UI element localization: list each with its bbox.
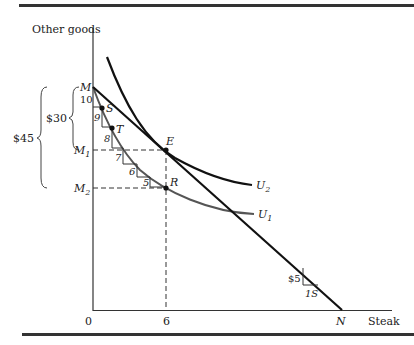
point-t-label: T [116,123,125,136]
brace-45-label: $45 [13,132,34,145]
brace-30-label: $30 [46,112,67,125]
bottom-rule [22,333,414,336]
slope-unit-label: 1S [305,288,318,299]
step-7-label: 7 [115,152,122,163]
x-tick-6-label: 6 [163,315,170,328]
point-s-dot [99,105,104,110]
point-e-dot [163,147,168,152]
slope-dollar-label: $5 [288,273,301,284]
budget-line [93,87,342,310]
origin-label: 0 [85,315,92,328]
step-5-label: 5 [143,177,149,188]
brace-30 [69,87,79,150]
u2-label: U2 [256,179,270,194]
top-rule [19,4,414,7]
n-label: N [335,315,346,328]
point-t-dot [109,125,114,130]
step-6-label: 6 [129,166,136,177]
point-r-dot [163,185,168,190]
m-label: M [79,81,92,94]
m1-label: M1 [73,144,90,159]
point-s-label: S [106,102,114,115]
y-axis-label: Other goods [32,23,101,36]
x-axis-label: Steak [368,315,400,328]
step-9-label: 9 [94,112,101,123]
point-e-label: E [165,135,174,148]
m2-label: M2 [73,182,90,197]
step-8-label: 8 [104,133,110,144]
indifference-curve-diagram: Other goods Steak 0 6 N M M1 M2 S T E R … [0,0,414,345]
point-r-label: R [169,176,178,189]
u1-label: U1 [258,208,272,223]
brace-45 [37,87,47,188]
step-10-label: 10 [80,94,93,105]
